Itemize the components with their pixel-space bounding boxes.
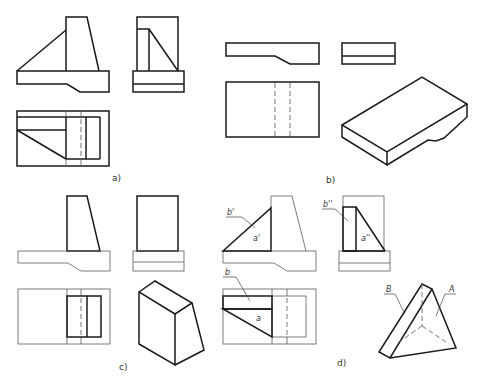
panel-d-caption: d) [337,358,346,368]
label-b-double-prime: b'' [323,200,332,209]
label-a-double-prime: a'' [361,234,370,243]
panel-a-side-view [133,17,184,92]
panel-d: b' a' b'' a'' b a [223,196,456,368]
panel-d-isometric-view: B A [379,284,456,358]
panel-b: b) [226,43,467,185]
panel-d-front-view: b' a' [223,196,316,271]
panel-c-caption: c) [119,362,127,372]
panel-a-top-view [17,111,109,166]
panel-a: a) [17,17,184,183]
label-a-prime: a' [253,234,260,243]
panel-a-front-view [17,17,109,92]
label-b-prime: b' [227,208,234,217]
panel-c-isometric-view [139,281,204,365]
panel-c: c) [18,196,204,372]
label-b: b [225,268,230,277]
panel-b-front-view [226,43,319,64]
panel-b-side-view [342,43,395,64]
label-face-B: B [386,285,392,294]
technical-drawing: a) b) [0,0,482,388]
panel-c-top-view [18,289,110,344]
panel-c-side-view [133,196,184,271]
label-face-A: A [448,285,454,294]
panel-a-caption: a) [112,173,121,183]
panel-b-caption: b) [326,175,335,185]
panel-b-isometric-view [342,77,467,165]
panel-c-front-view [18,196,110,271]
panel-d-top-view: b a [223,268,316,344]
panel-b-top-view [226,82,319,137]
panel-d-side-view: b'' a'' [322,196,390,271]
label-a: a [256,314,261,323]
